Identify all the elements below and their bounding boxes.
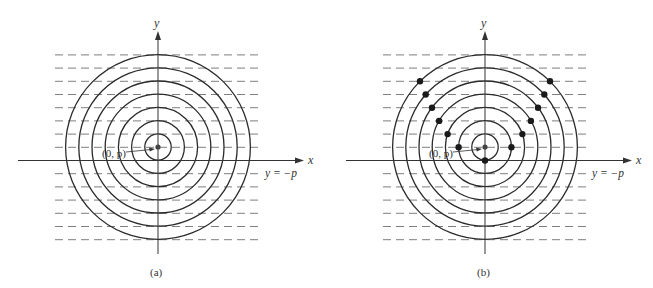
- parabola-point: [508, 144, 514, 150]
- focus-leader-line: [126, 150, 151, 153]
- parabola-point: [547, 78, 553, 84]
- focus-leader-arrow-icon: [476, 148, 482, 152]
- parabola-point: [455, 144, 461, 150]
- directrix-label: y = −p: [264, 167, 297, 180]
- focus-leader-arrow-icon: [149, 148, 155, 152]
- parabola-point: [541, 91, 547, 97]
- parabola-point: [528, 118, 534, 124]
- parabola-point: [535, 105, 541, 111]
- parabola-point: [482, 157, 488, 163]
- focus-label: (0, p): [429, 147, 453, 160]
- directrix-label: y = −p: [591, 167, 624, 180]
- panel-b: (0, p) x y y = −p (b): [346, 16, 642, 279]
- parabola-point: [519, 131, 525, 137]
- x-axis-label: x: [635, 153, 642, 167]
- y-axis-label: y: [153, 16, 160, 30]
- parabola-point: [423, 91, 429, 97]
- panel-a: (0, p) x y y = −p (a): [18, 16, 314, 279]
- focus-label: (0, p): [102, 147, 126, 160]
- panel-caption: (b): [477, 266, 490, 279]
- parabola-point: [429, 105, 435, 111]
- y-axis-label: y: [480, 16, 487, 30]
- x-axis-arrow-icon: [295, 158, 304, 164]
- parabola-construction-figure: (0, p) x y y = −p (a) (0, p) x y y = −p …: [0, 0, 653, 288]
- parabola-point: [417, 78, 423, 84]
- panel-caption: (a): [150, 266, 163, 279]
- parabola-point: [444, 131, 450, 137]
- x-axis-label: x: [307, 153, 314, 167]
- y-axis-arrow-icon: [482, 31, 488, 40]
- x-axis-arrow-icon: [623, 158, 632, 164]
- focus-point: [482, 144, 487, 149]
- y-axis-arrow-icon: [155, 31, 161, 40]
- focus-point: [155, 144, 160, 149]
- parabola-point: [436, 118, 442, 124]
